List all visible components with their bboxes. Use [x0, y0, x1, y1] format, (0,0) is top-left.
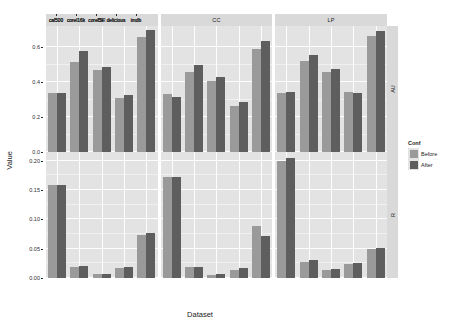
- bar-before-cal500[interactable]: [163, 94, 172, 152]
- bar-group-container: [161, 26, 273, 152]
- bar-after-imdb[interactable]: [261, 41, 270, 152]
- bar-group: [230, 152, 248, 278]
- col-facet-label-lp: LP: [328, 17, 335, 23]
- bar-before-imdb[interactable]: [252, 226, 261, 278]
- legend-label-after: After: [421, 162, 433, 168]
- bar-before-corel5k[interactable]: [322, 270, 331, 278]
- x-axis-ticks-lp: cal500corel16kcorel5kdeliciousimdb: [46, 14, 146, 36]
- x-axis-title-text: Dataset: [187, 310, 213, 319]
- bar-group: [207, 26, 225, 152]
- bar-before-corel16k[interactable]: [185, 72, 194, 152]
- bar-before-corel5k[interactable]: [207, 81, 216, 152]
- panel-cc-au: [161, 26, 273, 152]
- bar-group: [230, 26, 248, 152]
- bar-group: [93, 26, 111, 152]
- bar-before-delicious[interactable]: [115, 268, 124, 278]
- bar-after-imdb[interactable]: [376, 248, 385, 278]
- bar-before-corel5k[interactable]: [93, 70, 102, 152]
- row-facet-label-r: R: [389, 213, 395, 217]
- bar-after-delicious[interactable]: [239, 102, 248, 152]
- bar-after-cal500[interactable]: [286, 92, 295, 152]
- bar-before-cal500[interactable]: [163, 177, 172, 278]
- bar-after-corel16k[interactable]: [309, 260, 318, 278]
- bar-before-cal500[interactable]: [277, 93, 286, 153]
- legend-item-before[interactable]: Before: [408, 148, 437, 159]
- bar-group: [207, 152, 225, 278]
- bar-after-corel16k[interactable]: [79, 266, 88, 278]
- bar-before-delicious[interactable]: [230, 106, 239, 152]
- bar-before-corel16k[interactable]: [300, 262, 309, 278]
- bar-group: [185, 26, 203, 152]
- bar-after-imdb[interactable]: [261, 236, 270, 278]
- bar-group: [277, 26, 295, 152]
- bar-after-imdb[interactable]: [146, 30, 155, 153]
- bar-after-delicious[interactable]: [353, 263, 362, 278]
- bar-group: [344, 152, 362, 278]
- bar-before-imdb[interactable]: [252, 49, 261, 152]
- bar-before-cal500[interactable]: [48, 93, 57, 152]
- bar-after-delicious[interactable]: [124, 95, 133, 152]
- bar-after-corel5k[interactable]: [102, 67, 111, 152]
- bar-after-corel5k[interactable]: [216, 274, 225, 278]
- bar-before-corel5k[interactable]: [322, 72, 331, 153]
- panel-lp-au: [275, 26, 387, 152]
- bar-before-corel16k[interactable]: [185, 267, 194, 278]
- bar-after-delicious[interactable]: [124, 267, 133, 278]
- bar-before-delicious[interactable]: [344, 264, 353, 278]
- bar-before-delicious[interactable]: [230, 270, 239, 278]
- row-facet-label-au: AU: [389, 85, 395, 93]
- bar-before-imdb[interactable]: [137, 37, 146, 152]
- bar-group-container: [275, 26, 387, 152]
- bar-group-container: [275, 152, 387, 278]
- bar-after-corel16k[interactable]: [194, 267, 203, 278]
- bar-after-corel16k[interactable]: [309, 55, 318, 152]
- bar-before-corel16k[interactable]: [70, 62, 79, 152]
- bar-after-cal500[interactable]: [286, 158, 295, 278]
- bar-after-delicious[interactable]: [353, 93, 362, 153]
- y-tick-label: 0.10: [29, 216, 40, 222]
- bar-after-corel5k[interactable]: [331, 69, 340, 152]
- y-tick-label: 0.4: [32, 79, 40, 85]
- bar-after-delicious[interactable]: [239, 268, 248, 278]
- row-strip-spacer-bottom: [387, 278, 398, 300]
- y-tick-label: 0.20: [29, 158, 40, 164]
- bar-before-imdb[interactable]: [367, 249, 376, 278]
- bar-before-corel5k[interactable]: [207, 275, 216, 278]
- row-facet-strips: AU R: [387, 14, 398, 300]
- row-facet-strip-r: R: [387, 152, 398, 278]
- bar-before-cal500[interactable]: [48, 185, 57, 278]
- bar-after-cal500[interactable]: [172, 177, 181, 278]
- bar-after-corel16k[interactable]: [194, 65, 203, 152]
- bar-before-delicious[interactable]: [344, 92, 353, 152]
- bar-group: [115, 26, 133, 152]
- bar-after-corel5k[interactable]: [102, 274, 111, 278]
- bar-after-cal500[interactable]: [57, 93, 66, 152]
- bar-after-cal500[interactable]: [172, 97, 181, 152]
- bar-before-cal500[interactable]: [277, 161, 286, 278]
- bar-before-corel5k[interactable]: [93, 274, 102, 278]
- legend-key-after: [408, 159, 419, 170]
- x-tick-row: cal500corel16kcorel5kdeliciousimdb: [46, 14, 146, 36]
- bar-before-delicious[interactable]: [115, 98, 124, 152]
- bar-before-corel16k[interactable]: [300, 61, 309, 152]
- bar-after-corel5k[interactable]: [216, 77, 225, 152]
- x-tick-label-corel16k: corel16k: [66, 14, 86, 23]
- bar-group: [300, 26, 318, 152]
- legend-item-after[interactable]: After: [408, 159, 437, 170]
- bar-before-imdb[interactable]: [367, 36, 376, 152]
- bar-after-corel16k[interactable]: [79, 51, 88, 152]
- y-tick-label: 0.6: [32, 44, 40, 50]
- legend-swatch-before: [410, 150, 418, 158]
- row-strip-spacer-top: [387, 14, 398, 26]
- bar-before-corel16k[interactable]: [70, 267, 79, 278]
- bar-after-imdb[interactable]: [146, 233, 155, 278]
- bar-after-cal500[interactable]: [57, 185, 66, 278]
- bar-after-imdb[interactable]: [376, 31, 385, 152]
- panel-br-r: [46, 152, 158, 278]
- panel-cc-r: [161, 152, 273, 278]
- bar-after-corel5k[interactable]: [331, 269, 340, 278]
- bar-group: [70, 26, 88, 152]
- bar-before-imdb[interactable]: [137, 235, 146, 278]
- y-tick-label: 0.05: [29, 246, 40, 252]
- bar-group: [300, 152, 318, 278]
